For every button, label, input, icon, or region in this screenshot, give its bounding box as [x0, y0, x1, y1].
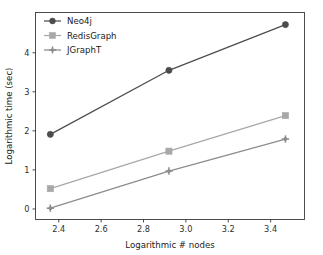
y-tick-label: 3 — [24, 87, 29, 97]
x-tick-label: 2.4 — [52, 224, 65, 234]
x-tick-label: 3.2 — [222, 224, 235, 234]
line-chart: 2.42.62.83.03.23.401234 Neo4jRedisGraphJ… — [0, 0, 323, 255]
x-tick-label: 3.4 — [264, 224, 277, 234]
x-tick-label: 2.8 — [137, 224, 150, 234]
legend-label: RedisGraph — [67, 31, 117, 41]
data-point-marker — [282, 113, 288, 119]
x-tick-label: 2.6 — [95, 224, 108, 234]
y-tick-label: 0 — [24, 204, 29, 214]
data-point-marker — [282, 22, 288, 28]
data-point-marker — [47, 131, 53, 137]
y-tick-label: 4 — [24, 48, 29, 58]
data-point-marker — [166, 67, 172, 73]
x-tick-label: 3.0 — [179, 224, 192, 234]
legend-item-jgrapht[interactable]: JGraphT — [44, 45, 102, 55]
x-axis-label: Logarithmic # nodes — [125, 240, 215, 250]
legend-label: Neo4j — [67, 16, 92, 26]
chart-figure: 2.42.62.83.03.23.401234 Neo4jRedisGraphJ… — [0, 0, 323, 255]
data-point-marker — [47, 186, 53, 192]
data-point-marker — [50, 18, 56, 24]
y-axis-label: Logarithmic time (sec) — [4, 68, 14, 165]
plot-background — [0, 0, 323, 255]
y-tick-label: 2 — [24, 126, 29, 136]
data-point-marker — [50, 33, 56, 39]
data-point-marker — [166, 148, 172, 154]
legend-label: JGraphT — [66, 45, 102, 55]
y-tick-label: 1 — [24, 165, 29, 175]
